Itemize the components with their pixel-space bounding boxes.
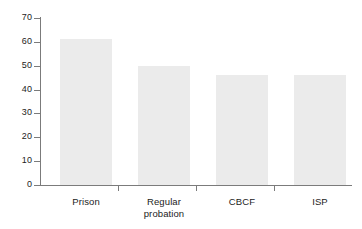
x-axis-category-label: CBCF: [203, 196, 281, 208]
x-axis-category-label-line: Prison: [47, 196, 125, 208]
x-axis-category-label-line: ISP: [281, 196, 359, 208]
bar: [294, 75, 346, 185]
y-axis-tick-label: 40: [2, 85, 32, 94]
y-axis-tick-label: 70: [2, 13, 32, 22]
y-axis-label: 20: [0, 132, 32, 141]
bar: [138, 66, 190, 185]
y-axis-label: 60: [0, 37, 32, 46]
x-axis-tick: [196, 186, 197, 191]
y-axis-tick-label: 60: [2, 37, 32, 46]
y-axis-label: 40: [0, 85, 32, 94]
y-axis-label: 10: [0, 156, 32, 165]
x-axis-category-label-line: CBCF: [203, 196, 281, 208]
y-axis-tick-label: 30: [2, 108, 32, 117]
y-axis-tick-label: 10: [2, 156, 32, 165]
x-axis-category-label-line: Regular: [125, 196, 203, 208]
x-axis-tick: [118, 186, 119, 191]
y-axis-label: 70: [0, 13, 32, 22]
bar: [60, 39, 112, 185]
bar: [216, 75, 268, 185]
plot-area: [40, 18, 352, 185]
y-axis-label: 0: [0, 180, 32, 189]
y-axis-tick-label: 50: [2, 61, 32, 70]
x-axis-category-label: ISP: [281, 196, 359, 208]
x-axis-category-label: Regularprobation: [125, 196, 203, 220]
y-axis-tick: [34, 185, 40, 186]
y-axis-tick-label: 20: [2, 132, 32, 141]
x-axis-tick: [274, 186, 275, 191]
x-axis-category-label: Prison: [47, 196, 125, 208]
x-axis-category-label-line: probation: [125, 208, 203, 220]
y-axis-tick-label: 0: [2, 180, 32, 189]
bar-chart: 010203040506070 PrisonRegularprobationCB…: [0, 0, 362, 229]
y-axis-label: 50: [0, 61, 32, 70]
y-axis-label: 30: [0, 108, 32, 117]
